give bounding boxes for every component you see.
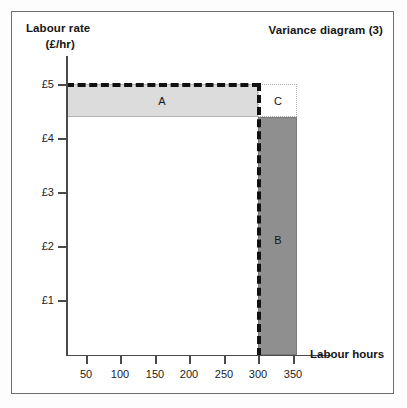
y-tick-label-5: £5 (28, 78, 54, 90)
x-tick-100 (120, 356, 122, 364)
x-tick-label-300: 300 (238, 368, 278, 380)
x-tick-250 (224, 356, 226, 364)
x-tick-200 (189, 356, 191, 364)
y-tick-1 (58, 300, 67, 302)
standard-hours-guide-line (257, 83, 261, 356)
x-tick-label-100: 100 (100, 368, 140, 380)
y-tick-2 (58, 246, 67, 248)
region-b-label: B (274, 234, 281, 246)
y-axis-title-line2: (£/hr) (26, 36, 90, 52)
x-tick-50 (86, 356, 88, 364)
x-axis-line (66, 355, 331, 357)
x-axis-title: Labour hours (310, 348, 384, 360)
variance-diagram-figure: Labour rate (£/hr) Variance diagram (3) … (0, 0, 407, 408)
diagram-frame (11, 11, 394, 394)
diagram-title: Variance diagram (3) (269, 24, 384, 36)
y-axis-title-line1: Labour rate (26, 22, 90, 34)
y-tick-3 (58, 192, 67, 194)
x-tick-label-350: 350 (273, 368, 313, 380)
y-tick-label-4: £4 (28, 132, 54, 144)
y-tick-5 (58, 84, 67, 86)
region-c-label: C (274, 95, 282, 107)
y-tick-4 (58, 138, 67, 140)
y-tick-label-2: £2 (28, 240, 54, 252)
y-axis-line (66, 56, 68, 356)
y-axis-title: Labour rate (£/hr) (26, 20, 90, 52)
y-tick-label-1: £1 (28, 294, 54, 306)
standard-rate-guide-line (66, 83, 260, 87)
x-tick-350 (293, 356, 295, 364)
region-a-label: A (158, 95, 165, 107)
y-tick-label-3: £3 (28, 186, 54, 198)
x-tick-150 (155, 356, 157, 364)
x-tick-300 (258, 356, 260, 364)
x-tick-label-200: 200 (169, 368, 209, 380)
